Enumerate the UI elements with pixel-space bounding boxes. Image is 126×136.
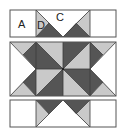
center-row [10,42,116,96]
label-a: A [18,18,26,30]
top-row: A D C [10,10,116,37]
bottom-row [10,100,116,127]
quilt-block-diagram: A D C [0,0,126,136]
center-point [62,68,64,70]
label-d: D [37,19,45,31]
label-c: C [56,11,64,23]
